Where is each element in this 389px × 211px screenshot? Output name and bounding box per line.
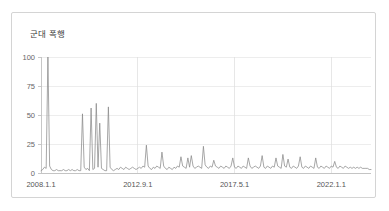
x-tick-label-1: 2012.9.1 [123, 180, 152, 189]
y-tick-label-0: 0 [31, 169, 35, 178]
y-tick-label-50: 50 [27, 111, 35, 120]
y-axis-tick-labels: 0255075100 [22, 53, 41, 178]
horizontal-gridlines [41, 57, 371, 173]
data-series-group [41, 57, 371, 171]
screenshot-root: 군대 폭행 0255075100 2008.1.12012.9.12017.5.… [0, 0, 389, 211]
x-axis-tick-labels: 2008.1.12012.9.12017.5.12022.1.1 [26, 180, 345, 189]
chart-card: 군대 폭행 0255075100 2008.1.12012.9.12017.5.… [11, 12, 376, 198]
y-tick-label-75: 75 [27, 82, 35, 91]
x-tick-label-2: 2017.5.1 [220, 180, 249, 189]
trend-line-chart: 0255075100 2008.1.12012.9.12017.5.12022.… [12, 13, 377, 199]
series-line-군대 폭행 [41, 57, 371, 171]
x-tick-label-0: 2008.1.1 [26, 180, 55, 189]
plot-area: 0255075100 2008.1.12012.9.12017.5.12022.… [12, 13, 377, 199]
y-tick-label-25: 25 [27, 140, 35, 149]
x-tick-label-3: 2022.1.1 [317, 180, 346, 189]
y-tick-label-100: 100 [22, 53, 35, 62]
